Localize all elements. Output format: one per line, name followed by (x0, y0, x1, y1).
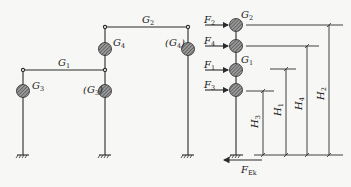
height-label-h1: H1 (272, 103, 285, 117)
beam-label-g1: G1 (58, 57, 70, 70)
fixed-support-icon (16, 155, 29, 158)
fixed-support-icon (181, 155, 194, 158)
stick-mass-3 (230, 64, 243, 77)
hinge-joint (186, 25, 189, 28)
base-shear-label: FEk (240, 164, 257, 177)
stick-mass-4 (230, 84, 243, 97)
hinge-joint (21, 68, 24, 71)
beam-label-g2: G2 (142, 14, 154, 27)
fixed-support-icon (229, 155, 243, 158)
height-label-h2: H2 (315, 87, 328, 101)
fixed-support-icon (98, 155, 111, 158)
mass-g4 (99, 43, 112, 56)
mass-g3 (17, 85, 30, 98)
mass-label-g3: G3 (32, 80, 44, 93)
structural-diagram: G1 G2 G3 (G3) G4 (G4) F2 F4 F1 F3 G2 G1 … (0, 0, 351, 187)
hinge-joint (103, 68, 106, 71)
stick-mass-label-g1: G1 (241, 54, 253, 67)
hinge-joint (103, 25, 106, 28)
height-label-h3: H3 (249, 115, 262, 129)
stick-mass-2 (230, 40, 243, 53)
height-label-h4: H4 (293, 97, 306, 111)
mass-label-g4: G4 (113, 37, 125, 50)
stick-mass-label-g2: G2 (241, 9, 253, 22)
height-dimensions (246, 23, 343, 157)
stick-mass-1 (230, 19, 243, 32)
